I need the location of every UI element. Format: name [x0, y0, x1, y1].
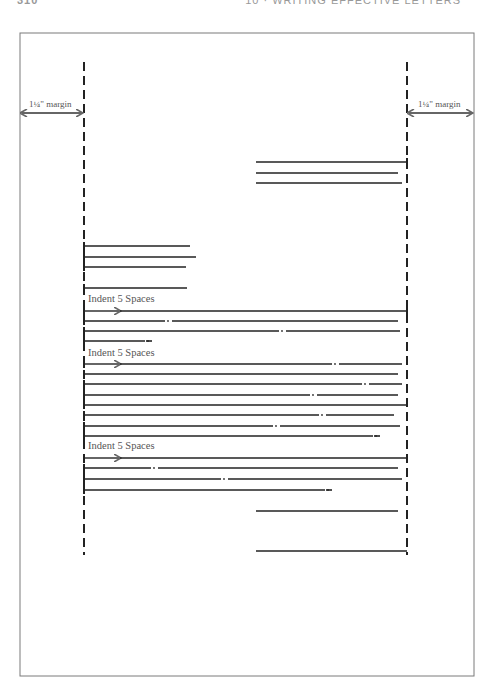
- indent-label-2: Indent 5 Spaces: [88, 347, 154, 358]
- sentence-period: [167, 320, 169, 322]
- indent-label-3: Indent 5 Spaces: [88, 440, 154, 451]
- sentence-period: [281, 330, 283, 332]
- sentence-period: [321, 414, 323, 416]
- sentence-period: [275, 425, 277, 427]
- letter-layout-diagram: 1¼" margin 1¼" margin Indent 5 Spaces In…: [0, 0, 489, 689]
- left-margin-label: 1¼" margin: [29, 99, 72, 109]
- right-margin-indicator: 1¼" margin: [409, 99, 472, 113]
- sentence-period: [153, 467, 155, 469]
- sentence-period: [223, 478, 225, 480]
- right-margin-label: 1¼" margin: [418, 99, 461, 109]
- sentence-period: [334, 363, 336, 365]
- sentence-period: [364, 383, 366, 385]
- sentence-period: [312, 394, 314, 396]
- indent-label-1: Indent 5 Spaces: [88, 293, 154, 304]
- left-margin-indicator: 1¼" margin: [22, 99, 82, 113]
